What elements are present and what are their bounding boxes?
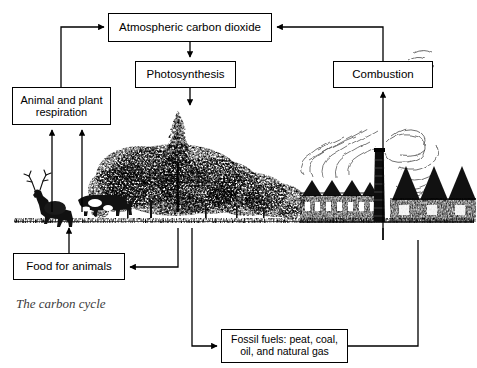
arrow-plants-to-food	[130, 228, 178, 267]
box-atmospheric-carbon-dioxide-label: Atmospheric carbon dioxide	[119, 21, 261, 34]
box-animal-and-plant-respiration[interactable]: Animal and plant respiration	[12, 87, 111, 125]
diagram-caption: The carbon cycle	[16, 296, 106, 312]
box-food-for-animals-label: Food for animals	[26, 260, 112, 273]
box-atmospheric-carbon-dioxide[interactable]: Atmospheric carbon dioxide	[108, 13, 272, 42]
arrow-plants-to-fossilfuels	[192, 228, 217, 346]
arrow-fossil-right-edge	[348, 240, 418, 346]
carbon-cycle-diagram: Atmospheric carbon dioxide Photosynthesi…	[0, 0, 477, 368]
box-food-for-animals[interactable]: Food for animals	[13, 253, 125, 280]
arrow-combustion-to-atmosphere	[277, 27, 383, 61]
box-combustion-label: Combustion	[352, 68, 413, 81]
box-photosynthesis[interactable]: Photosynthesis	[135, 61, 236, 88]
box-respiration-label-line1: Animal and plant	[21, 94, 103, 106]
box-fossil-fuels-label-line2: oil, and natural gas	[240, 346, 329, 358]
box-photosynthesis-label: Photosynthesis	[147, 68, 225, 81]
box-fossil-fuels[interactable]: Fossil fuels: peat, coal, oil, and natur…	[221, 329, 348, 363]
arrow-layer	[0, 0, 477, 368]
box-combustion[interactable]: Combustion	[333, 61, 433, 88]
box-respiration-label-line2: respiration	[36, 106, 87, 118]
arrow-respiration-to-atmosphere	[61, 27, 104, 87]
